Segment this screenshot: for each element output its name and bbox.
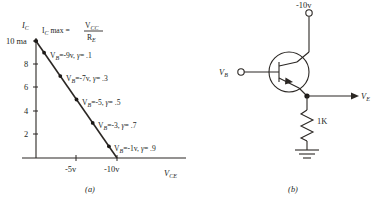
x-tick-label-minus5: -5v (65, 165, 77, 174)
y-tick-label-2: 2 (24, 130, 28, 139)
load-line-chart: IC VCE 10 ma 8 6 4 2 -5v -10v IC max = V… (0, 0, 189, 201)
icmax-formula-lhs: IC max = (42, 26, 70, 36)
x-axis-label: VCE (164, 169, 177, 179)
data-point-3 (75, 98, 79, 102)
y-tick-label-4: 4 (24, 107, 29, 116)
supply-terminal-icon (306, 10, 312, 16)
x-tick-label-minus10: -10v (104, 165, 120, 174)
y-axis-label: IC (21, 21, 30, 31)
base-terminal-icon (238, 69, 244, 75)
point-annotation-3: VB=-5, γ= .5 (82, 98, 121, 108)
figure-panel-b: -10v VB VE 1K (b) (189, 0, 378, 201)
figure-panel-a: IC VCE 10 ma 8 6 4 2 -5v -10v IC max = V… (0, 0, 189, 201)
data-point-5 (107, 144, 111, 148)
data-point-4 (91, 121, 95, 125)
supply-label: -10v (296, 1, 312, 10)
point-annotation-1: VB=-9v, γ= .1 (50, 51, 92, 61)
collector-internal (279, 62, 297, 66)
base-label: VB (219, 68, 228, 78)
icmax-formula-denominator: RE (87, 33, 96, 43)
circuit-diagram: -10v VB VE 1K (b) (189, 0, 378, 201)
point-annotation-4: VB=-3, γ= .7 (98, 121, 137, 131)
resistor-label: 1K (317, 117, 327, 126)
icmax-formula: IC max = VCC RE (42, 21, 103, 43)
y-tick-label-10ma: 10 ma (6, 37, 27, 46)
y-tick-label-6: 6 (24, 83, 28, 92)
icmax-formula-numerator: VCC (85, 21, 99, 31)
point-annotation-2: VB=-7v, γ= .3 (66, 74, 108, 84)
panel-a-caption: (a) (85, 185, 95, 194)
output-arrow-icon (351, 93, 359, 100)
emitter-label: VE (361, 92, 370, 102)
y-tick-label-8: 8 (24, 60, 28, 69)
data-point-2 (58, 74, 62, 78)
data-point-icmax (34, 39, 38, 43)
panel-b-caption: (b) (288, 185, 298, 194)
point-annotation-5: VB=-1v, γ= .9 (114, 144, 156, 154)
data-point-1 (42, 51, 46, 55)
resistor-icon (301, 110, 313, 141)
